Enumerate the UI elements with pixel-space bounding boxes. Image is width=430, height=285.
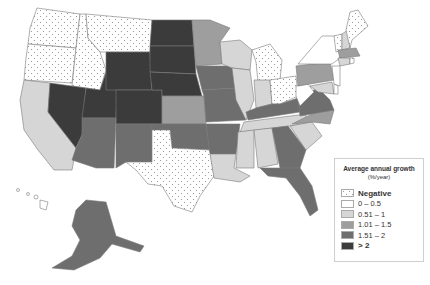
dotted-swatch-icon bbox=[341, 189, 354, 197]
map-legend: Average annual growth (%/year) Negative … bbox=[334, 158, 424, 262]
state-ak bbox=[52, 200, 144, 270]
state-de bbox=[334, 84, 338, 94]
legend-item-0-0.5: 0 – 0.5 bbox=[335, 199, 423, 210]
legend-item-negative: Negative bbox=[335, 188, 423, 199]
state-ma bbox=[338, 48, 360, 58]
white-swatch-icon bbox=[341, 200, 354, 208]
state-co bbox=[116, 90, 162, 124]
state-mi bbox=[252, 44, 282, 82]
state-nj bbox=[332, 66, 340, 86]
state-mt bbox=[86, 14, 152, 52]
state-ia bbox=[196, 66, 236, 90]
state-ms bbox=[236, 130, 254, 168]
legend-item-gt-2: > 2 bbox=[335, 241, 423, 252]
state-sd bbox=[150, 46, 196, 74]
state-wi bbox=[220, 40, 252, 70]
state-wy bbox=[106, 52, 152, 90]
legend-item-0.51-1: 0.51 – 1 bbox=[335, 209, 423, 220]
state-me bbox=[346, 10, 368, 48]
state-nm bbox=[116, 124, 152, 168]
dark-gray-swatch-icon bbox=[341, 231, 354, 239]
state-wa bbox=[28, 8, 80, 48]
state-fl bbox=[260, 168, 318, 216]
legend-title: Average annual growth bbox=[335, 164, 423, 173]
state-nd bbox=[150, 20, 194, 46]
legend-item-1.01-1.5: 1.01 – 1.5 bbox=[335, 220, 423, 231]
state-hi bbox=[17, 189, 49, 211]
state-ct bbox=[338, 58, 350, 66]
legend-item-1.51-2: 1.51 – 2 bbox=[335, 230, 423, 241]
state-ks bbox=[162, 96, 206, 124]
legend-subtitle: (%/year) bbox=[335, 173, 423, 182]
state-ar bbox=[206, 124, 240, 154]
state-ri bbox=[350, 58, 354, 64]
darkest-swatch-icon bbox=[341, 242, 354, 250]
state-in bbox=[254, 80, 272, 108]
light-gray-swatch-icon bbox=[341, 210, 354, 218]
mid-gray-swatch-icon bbox=[341, 221, 354, 229]
state-ny bbox=[298, 36, 340, 64]
state-or bbox=[24, 44, 76, 83]
